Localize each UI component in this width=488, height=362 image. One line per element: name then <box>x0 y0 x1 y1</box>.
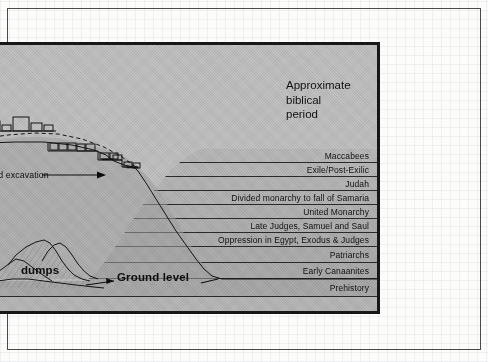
period-title-line-1: Approximate <box>286 78 351 93</box>
ground-level-label: Ground level <box>117 271 189 283</box>
figure-inner: MaccabeesExile/Post-ExilicJudahDivided m… <box>0 45 377 311</box>
period-title-block: Approximate biblical period <box>286 78 351 122</box>
tell-section-figure: MaccabeesExile/Post-ExilicJudahDivided m… <box>0 42 380 314</box>
period-title-line-2: biblical <box>286 93 351 108</box>
stratified-excavation-label: tified excavation <box>0 170 49 180</box>
dumps-label: dumps <box>21 264 59 276</box>
period-title-line-3: period <box>286 107 351 122</box>
